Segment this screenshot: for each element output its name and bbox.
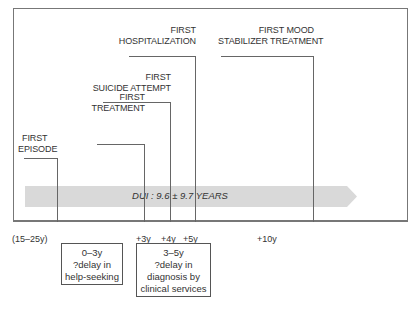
- hospitalization-marker-overlay: [195, 186, 196, 207]
- event-first-mood-stabilizer-label: FIRST MOOD STABILIZER TREATMENT: [218, 25, 314, 47]
- mood-marker-overlay: [313, 186, 314, 207]
- event-first-treatment-marker: [144, 144, 145, 222]
- event-first-suicide-attempt-label: FIRST SUICIDE ATTEMPT: [90, 72, 171, 94]
- event-first-episode-label: FIRST EPISODE: [18, 133, 58, 155]
- event-first-hospitalization-label: FIRST HOSPITALIZATION: [110, 25, 196, 47]
- dui-arrow-band: DUI : 9.6 ± 9.7 YEARS: [25, 186, 357, 207]
- treatment-marker-overlay: [144, 186, 145, 207]
- event-first-treatment-label: FIRST TREATMENT: [90, 92, 145, 114]
- event-first-hospitalization-connector: [129, 56, 196, 57]
- tick-onset-age: (15–25y): [12, 234, 48, 244]
- dui-label: DUI : 9.6 ± 9.7 YEARS: [25, 190, 335, 201]
- diagnosis-delay-box: 3–5y ?delay in diagnosis by clinical ser…: [136, 243, 211, 297]
- help-seeking-delay-box: 0–3y ?delay in help-seeking: [61, 243, 123, 285]
- suicide-marker-overlay: [170, 186, 171, 207]
- event-first-episode-connector: [24, 158, 58, 159]
- event-first-mood-stabilizer-connector: [221, 56, 314, 57]
- tick-plus-10y: +10y: [257, 234, 277, 244]
- episode-marker-overlay: [57, 186, 58, 207]
- event-first-treatment-connector: [97, 144, 145, 145]
- event-first-suicide-attempt-connector: [103, 102, 171, 103]
